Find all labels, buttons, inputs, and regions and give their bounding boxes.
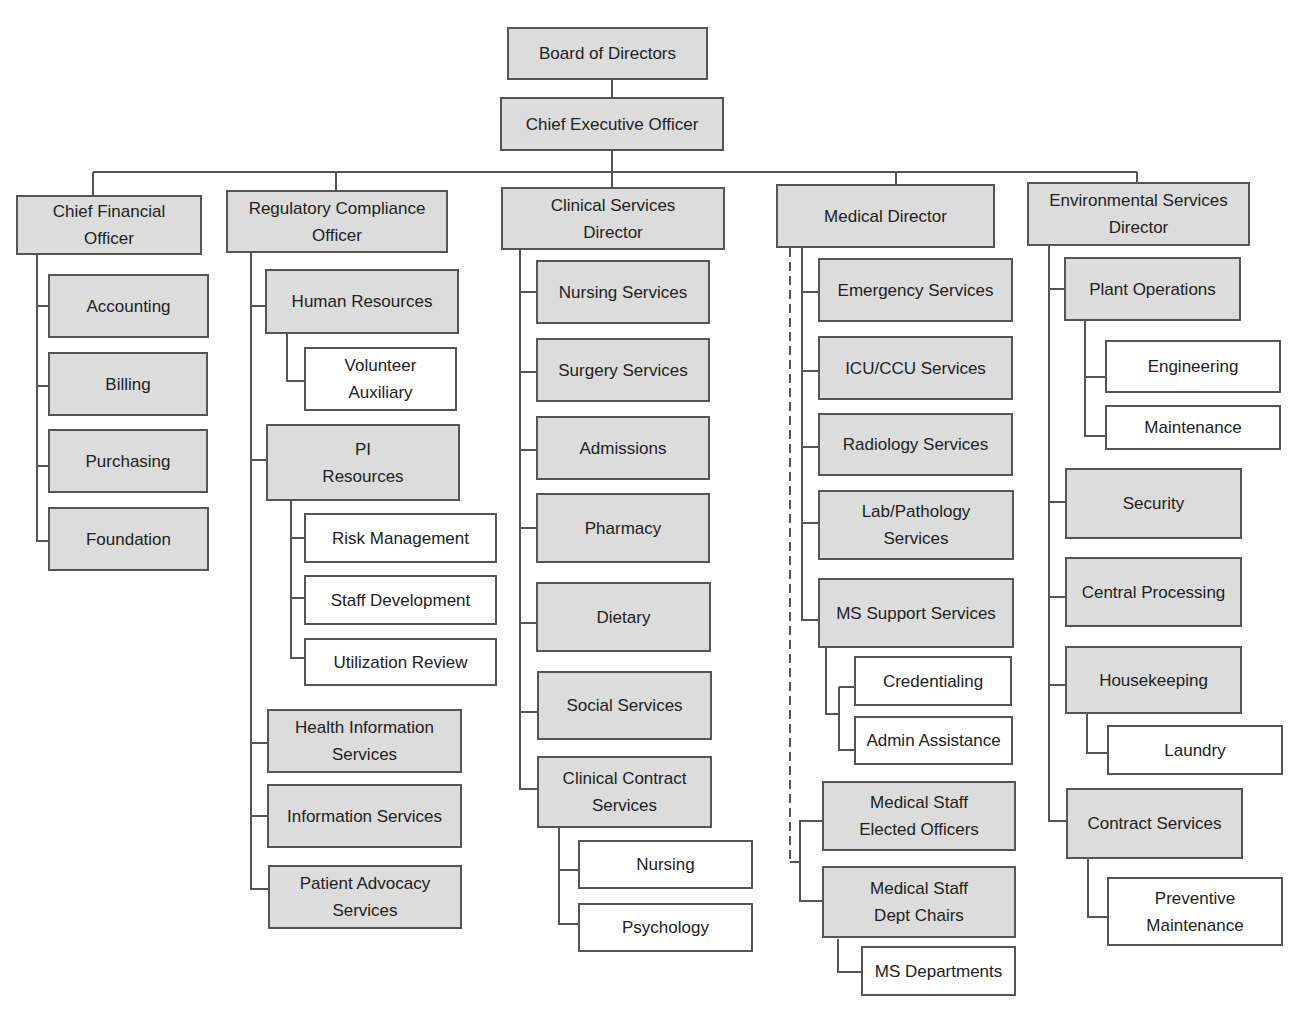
information-services-node: Information Services xyxy=(267,784,462,848)
clinical-contract-services-node: Clinical Contract Services xyxy=(537,756,712,828)
utilization-review-node: Utilization Review xyxy=(304,638,497,686)
engineering-node: Engineering xyxy=(1105,340,1281,393)
admissions-node: Admissions xyxy=(536,416,710,480)
purchasing-node: Purchasing xyxy=(48,429,208,493)
ceo-node: Chief Executive Officer xyxy=(500,97,724,151)
patient-advocacy-services-node: Patient Advocacy Services xyxy=(268,865,462,929)
rco-node: Regulatory Compliance Officer xyxy=(226,190,448,253)
accounting-node: Accounting xyxy=(48,274,209,338)
environmental-services-director-node: Environmental Services Director xyxy=(1027,182,1250,246)
clinical-services-director-node: Clinical Services Director xyxy=(501,187,725,250)
security-node: Security xyxy=(1065,468,1242,539)
medical-staff-elected-officers-node: Medical Staff Elected Officers xyxy=(822,781,1016,851)
ms-support-services-node: MS Support Services xyxy=(818,578,1014,648)
maintenance-node: Maintenance xyxy=(1105,405,1281,450)
medical-director-node: Medical Director xyxy=(776,184,995,248)
housekeeping-node: Housekeeping xyxy=(1065,646,1242,714)
cfo-node: Chief Financial Officer xyxy=(16,195,202,255)
dietary-node: Dietary xyxy=(536,582,711,652)
volunteer-auxiliary-node: Volunteer Auxiliary xyxy=(304,347,457,411)
central-processing-node: Central Processing xyxy=(1065,557,1242,627)
health-information-services-node: Health Information Services xyxy=(267,709,462,773)
credentialing-node: Credentialing xyxy=(854,656,1012,706)
medical-staff-dept-chairs-node: Medical Staff Dept Chairs xyxy=(822,866,1016,938)
admin-assistance-node: Admin Assistance xyxy=(854,716,1013,765)
social-services-node: Social Services xyxy=(537,671,712,740)
psychology-node: Psychology xyxy=(578,903,753,952)
contract-services-node: Contract Services xyxy=(1066,788,1243,859)
human-resources-node: Human Resources xyxy=(265,269,459,334)
billing-node: Billing xyxy=(48,352,208,416)
lab-pathology-services-node: Lab/Pathology Services xyxy=(818,490,1014,560)
pharmacy-node: Pharmacy xyxy=(536,493,710,563)
plant-operations-node: Plant Operations xyxy=(1064,257,1241,321)
board-of-directors-node: Board of Directors xyxy=(507,27,708,80)
laundry-node: Laundry xyxy=(1107,725,1283,775)
surgery-services-node: Surgery Services xyxy=(536,338,710,402)
icu-ccu-services-node: ICU/CCU Services xyxy=(818,336,1013,400)
ms-departments-node: MS Departments xyxy=(861,946,1016,996)
risk-management-node: Risk Management xyxy=(304,513,497,563)
staff-development-node: Staff Development xyxy=(304,575,497,625)
nursing-node: Nursing xyxy=(578,840,753,889)
foundation-node: Foundation xyxy=(48,507,209,571)
emergency-services-node: Emergency Services xyxy=(818,258,1013,322)
radiology-services-node: Radiology Services xyxy=(818,413,1013,476)
pi-resources-node: PI Resources xyxy=(266,424,460,501)
preventive-maintenance-node: Preventive Maintenance xyxy=(1107,877,1283,946)
nursing-services-node: Nursing Services xyxy=(536,260,710,324)
